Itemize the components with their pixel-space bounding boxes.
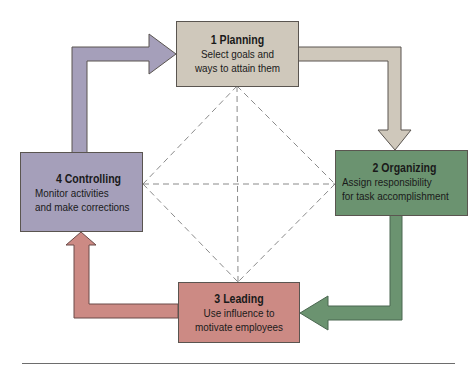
node-leading-desc-line1: Use influence to	[187, 306, 290, 320]
arrow-organizing-to-leading	[300, 215, 402, 330]
node-controlling-desc-line2: and make corrections	[35, 200, 127, 214]
node-organizing: 2 Organizing Assign responsibility for t…	[335, 150, 468, 216]
node-organizing-desc-line2: for task accomplishment	[342, 189, 450, 203]
node-planning-desc-line1: Select goals and	[185, 47, 289, 61]
node-organizing-desc-line1: Assign responsibility	[342, 175, 450, 189]
node-organizing-title: 2 Organizing	[350, 161, 460, 175]
node-controlling: 4 Controlling Monitor activities and mak…	[20, 152, 143, 232]
node-controlling-desc-line1: Monitor activities	[35, 186, 127, 200]
node-controlling-title: 4 Controlling	[41, 172, 135, 186]
node-leading-title: 3 Leading	[186, 292, 292, 306]
arrow-planning-to-organizing	[298, 47, 411, 150]
arrow-leading-to-controlling	[66, 232, 178, 318]
node-planning-title: 1 Planning	[184, 33, 290, 47]
bottom-divider-rule	[22, 363, 455, 364]
node-planning-desc-line2: ways to attain them	[185, 61, 289, 75]
dashed-connections	[143, 86, 335, 282]
arrow-controlling-to-planning	[72, 34, 176, 166]
node-leading-desc-line2: motivate employees	[187, 320, 290, 334]
node-planning: 1 Planning Select goals and ways to atta…	[176, 21, 299, 87]
node-leading: 3 Leading Use influence to motivate empl…	[178, 282, 300, 343]
